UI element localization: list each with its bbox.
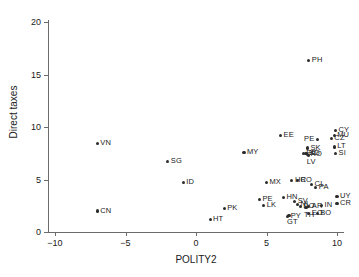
y-tick-label: 5 [36,175,41,184]
point-label: RO [310,150,321,158]
y-tick-mark [44,22,48,23]
point-marker [282,196,285,199]
x-tick-mark [126,232,127,236]
point-label: ID [186,178,194,186]
point-marker [333,145,336,148]
y-tick-mark [44,127,48,128]
x-tick-label: −10 [47,239,62,248]
point-label: LV [307,158,316,166]
point-label: HT [213,215,223,223]
point-marker [262,204,265,207]
point-marker [307,59,310,62]
point-marker [316,212,319,215]
y-tick-label: 10 [31,123,41,132]
x-tick-label: 10 [332,239,342,248]
x-axis-title: POLITY2 [48,255,344,265]
scatter-plot-figure: VNCNSGIDHTPKMYPELKMXEEHNPYGTHRCOSVNIDOPH… [0,0,359,277]
point-label: MX [270,178,281,186]
point-label: PK [227,204,237,212]
point-marker [334,152,337,155]
y-tick-mark [44,180,48,181]
point-label: EE [284,131,294,139]
x-tick-mark [337,232,338,236]
y-axis-title: Direct taxes [9,72,19,152]
point-marker [182,181,185,184]
point-label: BO [320,209,331,217]
y-tick-label: 0 [36,228,41,237]
x-tick-mark [267,232,268,236]
y-tick-label: 20 [31,18,41,27]
point-label: CN [100,207,111,215]
point-marker [316,138,319,141]
point-marker [223,207,226,210]
plot-area: VNCNSGIDHTPKMYPELKMXEEHNPYGTHRCOSVNIDOPH… [0,0,359,277]
point-label: VN [100,139,111,147]
point-label: LK [267,201,276,209]
y-axis-line [48,20,49,233]
x-tick-label: −5 [120,239,130,248]
point-marker [279,134,282,137]
y-tick-label: 15 [31,70,41,79]
x-tick-mark [55,232,56,236]
point-marker [320,204,323,207]
point-marker [258,198,261,201]
point-marker [96,142,99,145]
point-label: PA [319,183,329,191]
point-label: GT [287,218,298,226]
y-tick-mark [44,232,48,233]
point-marker [335,195,338,198]
point-label: SG [171,157,182,165]
point-marker [335,202,338,205]
point-marker [265,181,268,184]
point-label: CY [339,126,350,134]
point-marker [310,183,313,186]
point-marker [334,129,337,132]
point-label: MY [247,148,258,156]
point-marker [333,134,336,137]
point-label: SI [339,149,346,157]
x-tick-label: 0 [193,239,198,248]
point-label: IN [324,201,332,209]
point-marker [330,137,333,140]
y-tick-mark [44,75,48,76]
x-tick-label: 5 [264,239,269,248]
point-label: CR [340,199,351,207]
point-marker [242,151,245,154]
point-marker [209,218,212,221]
point-label: PE [304,135,314,143]
x-tick-mark [196,232,197,236]
point-label: PH [312,56,323,64]
point-marker [290,179,293,182]
point-marker [166,160,169,163]
point-marker [96,209,99,212]
point-label: HN [286,193,297,201]
